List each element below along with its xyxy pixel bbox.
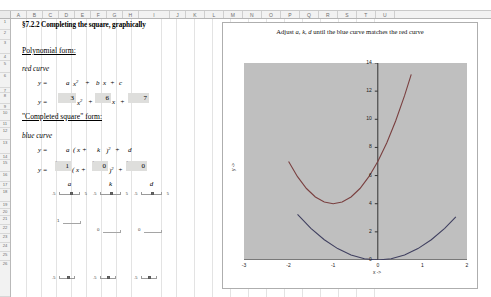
grid-column-line xyxy=(131,19,132,297)
column-header-p[interactable]: P xyxy=(281,11,300,18)
column-header-t[interactable]: T xyxy=(357,11,376,18)
slider-a-bottom-thumb[interactable] xyxy=(67,276,70,279)
x-tick-label: -1 xyxy=(326,263,340,268)
y-tick-label: 10 xyxy=(360,116,372,121)
row-header-11[interactable]: 11 xyxy=(0,121,10,128)
cs-generic-plus: + xyxy=(115,147,120,154)
slider-d-bottom[interactable]: -5 xyxy=(134,273,164,281)
row-header-5[interactable]: 5 xyxy=(0,61,10,73)
slider-a-max: 5 xyxy=(85,191,87,196)
row-header-15[interactable]: 15 xyxy=(0,160,10,172)
slider-a-bottom[interactable]: -5 xyxy=(52,273,82,281)
column-header-g[interactable]: G xyxy=(107,11,123,18)
row-header-1[interactable]: 1 xyxy=(0,19,10,30)
column-header-m[interactable]: M xyxy=(224,11,243,18)
column-header-f[interactable]: F xyxy=(91,11,107,18)
y-tick-label: 12 xyxy=(360,88,372,93)
column-header-d[interactable]: D xyxy=(59,11,75,18)
column-header-c[interactable]: C xyxy=(43,11,59,18)
page-title: §7.2.2 Completing the square, graphicall… xyxy=(22,22,146,29)
row-header-13[interactable]: 13 xyxy=(0,140,10,154)
poly-value-x-squared: x2 xyxy=(77,99,82,107)
parameter-d-cell[interactable]: ' 0 xyxy=(126,161,147,171)
cs-value-plus: + xyxy=(118,167,123,174)
y-tick-label: 4 xyxy=(360,201,372,206)
parameter-a-cell[interactable]: ' 1 xyxy=(55,161,71,171)
coefficient-b-value: 6 xyxy=(106,95,110,102)
row-header-6[interactable]: 6 xyxy=(0,73,10,88)
parameter-k-cell[interactable]: ' 0 xyxy=(92,161,108,171)
column-header-e[interactable]: E xyxy=(75,11,91,18)
slider-k-bottom[interactable]: -5 xyxy=(93,273,123,281)
readout-a[interactable]: 1 xyxy=(57,218,81,225)
column-header-u[interactable]: U xyxy=(376,11,395,18)
slider-d-bottom-min: -5 xyxy=(134,275,138,280)
slider-k-bottom-thumb[interactable] xyxy=(107,276,110,279)
column-header-l[interactable]: L xyxy=(205,11,224,18)
polynomial-form-heading: Polynomial form: xyxy=(22,47,76,55)
marker-icon: ' xyxy=(56,161,57,165)
column-header-row: ABCDEFGHIJKLMNOPQRSTU xyxy=(0,10,491,19)
column-header-r[interactable]: R xyxy=(319,11,338,18)
coefficient-c-cell[interactable]: 7 xyxy=(128,93,149,103)
poly-generic-x-squared: x2 xyxy=(73,80,78,88)
readout-a-track xyxy=(63,223,81,224)
row-header-16[interactable]: 16 xyxy=(0,172,10,182)
chart-object[interactable]: Adjust a, k, d until the blue curve matc… xyxy=(222,22,478,289)
row-header-12[interactable]: 12 xyxy=(0,128,10,140)
row-header-20[interactable]: 20 xyxy=(0,209,10,216)
slider-d-bottom-thumb[interactable] xyxy=(148,276,151,279)
slider-d-thumb[interactable] xyxy=(151,192,154,195)
row-header-25[interactable]: 25 xyxy=(0,252,10,261)
cs-generic-d: d xyxy=(128,147,132,154)
y-axis-title: y -> xyxy=(231,163,236,171)
y-tick-label: 8 xyxy=(360,144,372,149)
select-all-corner[interactable] xyxy=(0,11,11,18)
grid-column-line xyxy=(194,19,195,297)
column-header-s[interactable]: S xyxy=(338,11,357,18)
cs-generic-close: )2 xyxy=(106,147,111,155)
row-header-4[interactable]: 4 xyxy=(0,54,10,61)
row-header-gutter: 1234567891011121314151617181920212223242… xyxy=(0,19,11,297)
row-header-8[interactable]: 8 xyxy=(0,93,10,104)
cs-generic-open: ( x + xyxy=(73,147,87,154)
slider-a[interactable]: a -5 5 xyxy=(52,189,87,197)
readout-k[interactable]: 0 xyxy=(97,227,121,234)
slider-a-thumb[interactable] xyxy=(70,192,73,195)
readout-d-track xyxy=(144,232,162,233)
row-header-19[interactable]: 19 xyxy=(0,202,10,209)
slider-k[interactable]: k -5 5 xyxy=(93,189,128,197)
column-header-a[interactable]: A xyxy=(11,11,27,18)
row-header-17[interactable]: 17 xyxy=(0,182,10,189)
poly-value-x: x xyxy=(112,99,115,106)
row-header-22[interactable]: 22 xyxy=(0,225,10,234)
column-header-i[interactable]: I xyxy=(139,11,170,18)
column-header-k[interactable]: K xyxy=(186,11,205,18)
row-header-24[interactable]: 24 xyxy=(0,243,10,252)
readout-d-value: 0 xyxy=(138,227,140,232)
coefficient-a-cell[interactable]: 3 xyxy=(58,93,76,103)
row-header-2[interactable]: 2 xyxy=(0,30,10,40)
column-header-h[interactable]: H xyxy=(123,11,139,18)
slider-d-max: 5 xyxy=(167,191,169,196)
slider-d[interactable]: d -5 5 xyxy=(134,189,169,197)
slider-k-thumb[interactable] xyxy=(110,192,113,195)
x-tick-label: -2 xyxy=(282,263,296,268)
column-header-o[interactable]: O xyxy=(262,11,281,18)
row-header-23[interactable]: 23 xyxy=(0,234,10,243)
column-header-b[interactable]: B xyxy=(27,11,43,18)
row-header-26[interactable]: 26 xyxy=(0,261,10,297)
slider-a-bottom-min: -5 xyxy=(52,275,56,280)
row-header-3[interactable]: 3 xyxy=(0,40,10,54)
column-header-n[interactable]: N xyxy=(243,11,262,18)
column-header-j[interactable]: J xyxy=(170,11,186,18)
coefficient-b-cell[interactable]: 6 xyxy=(95,93,111,103)
row-header-21[interactable]: 21 xyxy=(0,216,10,225)
row-header-10[interactable]: 10 xyxy=(0,110,10,121)
readout-d[interactable]: 0 xyxy=(138,227,162,234)
column-header-q[interactable]: Q xyxy=(300,11,319,18)
row-header-18[interactable]: 18 xyxy=(0,189,10,202)
x-tick-label: 1 xyxy=(415,263,429,268)
cs-generic-lhs: y = xyxy=(38,147,48,154)
parameter-k-value: 0 xyxy=(103,163,107,170)
